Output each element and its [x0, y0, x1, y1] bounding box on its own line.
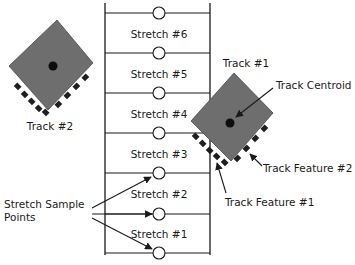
track-1-label: Track #1: [222, 57, 269, 69]
track-1-body-icon: [191, 73, 273, 161]
stretch-label-3: Stretch #3: [131, 148, 188, 160]
track-2: Track #2: [9, 20, 93, 132]
sample-point-circle: [153, 208, 165, 220]
sample-point-circle: [153, 7, 165, 19]
feature-1-arrow-icon: [217, 163, 226, 193]
sample-points-label-line2: Points: [4, 211, 36, 223]
sample-point-circle: [153, 127, 165, 139]
sample-point-circle: [153, 167, 165, 179]
stretch-label-4: Stretch #4: [131, 108, 188, 120]
sample-point-circle: [153, 47, 165, 59]
feature-2-arrow-icon: [250, 154, 262, 166]
track-feature-1-label: Track Feature #1: [224, 196, 314, 208]
track-1-centroid-icon: [226, 119, 235, 128]
stretch-label-6: Stretch #6: [131, 28, 188, 40]
sample-points-label-line1: Stretch Sample: [4, 198, 85, 210]
track-centroid-label: Track Centroid: [275, 79, 351, 91]
stretch-label-2: Stretch #2: [131, 188, 188, 200]
track-2-centroid-icon: [49, 62, 58, 71]
track-feature-2-label: Track Feature #2: [262, 162, 352, 174]
sample-point-circle: [153, 87, 165, 99]
stretch-label-5: Stretch #5: [131, 68, 188, 80]
track-stretch-diagram: Stretch #6 Stretch #5 Stretch #4 Stretch…: [0, 0, 355, 265]
sample-point-circle: [153, 247, 165, 259]
track-1: Track #1: [191, 57, 273, 166]
track-2-label: Track #2: [26, 120, 73, 132]
stretch-ladder: Stretch #6 Stretch #5 Stretch #4 Stretch…: [105, 3, 210, 259]
stretch-label-1: Stretch #1: [131, 228, 188, 240]
